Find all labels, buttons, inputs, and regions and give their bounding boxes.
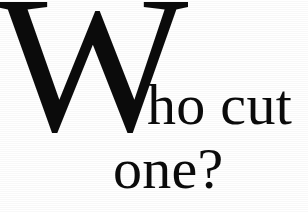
scanned-text-image: W ho cut one? [0,0,308,212]
text-line-one: ho cut [147,76,292,134]
text-line-two: one? [113,140,224,198]
